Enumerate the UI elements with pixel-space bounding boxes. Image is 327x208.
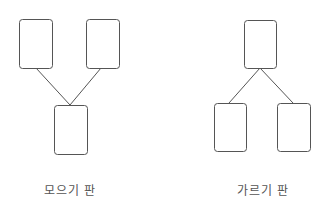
split-board-diagram — [215, 21, 311, 152]
bottom-right-box — [278, 104, 311, 152]
top-left-box — [20, 20, 53, 69]
top-box — [245, 21, 277, 69]
split-board-label: 가르기 판 — [237, 181, 290, 198]
top-right-box — [87, 20, 120, 69]
merge-board-label: 모으기 판 — [44, 181, 97, 198]
connector-line — [36, 68, 70, 105]
bottom-box — [55, 106, 88, 155]
connector-line — [260, 68, 293, 103]
bottom-left-box — [215, 104, 247, 152]
diagram-canvas — [0, 0, 327, 208]
connector-line — [229, 68, 260, 103]
connector-line — [70, 68, 101, 105]
merge-board-diagram — [20, 20, 120, 155]
